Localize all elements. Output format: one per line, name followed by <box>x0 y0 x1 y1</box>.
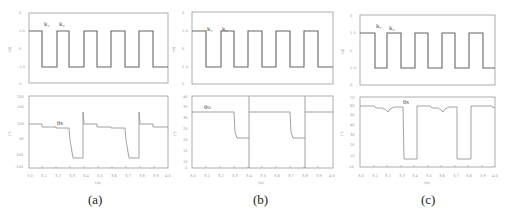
y-axis-label: (V) <box>172 46 176 52</box>
svg-text:0: 0 <box>350 49 353 53</box>
svg-text:200: 200 <box>17 95 25 99</box>
y-tick-labels: 51.5 0-1.5 -5 <box>349 14 356 87</box>
svg-text:3.2: 3.2 <box>218 174 224 178</box>
signal-theta-s-trace <box>29 112 168 158</box>
svg-text:4.0: 4.0 <box>165 174 171 178</box>
svg-text:1.5: 1.5 <box>182 29 188 33</box>
svg-text:3.8: 3.8 <box>139 174 145 178</box>
label-k1: k₁ <box>376 22 382 30</box>
svg-text:15: 15 <box>183 149 188 153</box>
svg-text:30: 30 <box>183 116 188 120</box>
svg-text:3.6: 3.6 <box>111 174 117 178</box>
svg-text:25: 25 <box>183 127 188 131</box>
label-k2: k₂ <box>389 24 396 32</box>
svg-text:3.7: 3.7 <box>453 174 459 178</box>
y-axis-label: (°) <box>8 131 12 136</box>
svg-text:3.6: 3.6 <box>439 174 445 178</box>
caption-a: (a) <box>88 192 102 208</box>
svg-text:3.1: 3.1 <box>41 174 47 178</box>
y-axis-label: (V) <box>341 48 345 54</box>
svg-text:-5: -5 <box>18 82 22 86</box>
svg-text:4.0: 4.0 <box>492 174 498 178</box>
svg-text:3.3: 3.3 <box>232 174 238 178</box>
svg-text:40: 40 <box>350 123 355 127</box>
svg-text:-1.5: -1.5 <box>18 65 25 69</box>
plot-frame <box>29 96 168 168</box>
svg-text:3.0: 3.0 <box>358 174 364 178</box>
svg-text:10: 10 <box>350 154 355 158</box>
signal-theta-o-trace <box>192 112 249 138</box>
svg-text:3.1: 3.1 <box>372 174 378 178</box>
svg-text:20: 20 <box>183 138 188 142</box>
plot-frame <box>360 97 495 167</box>
signal-k-trace <box>360 33 495 68</box>
svg-text:3.5: 3.5 <box>426 174 432 178</box>
svg-text:-100: -100 <box>15 153 24 157</box>
y-tick-labels: 7060 5040 3020 10-10 <box>348 96 355 169</box>
signal-theta-o-trace <box>249 112 305 138</box>
svg-text:3.4: 3.4 <box>83 174 89 178</box>
svg-text:0: 0 <box>182 47 185 51</box>
svg-text:3.5: 3.5 <box>260 174 266 178</box>
x-axis-label: t(s) <box>424 181 431 185</box>
svg-text:60: 60 <box>350 104 355 108</box>
label-k2: k₂ <box>222 25 229 33</box>
y-tick-labels: 200150 10050 -100-150 <box>15 95 25 169</box>
svg-text:3.3: 3.3 <box>69 174 75 178</box>
x-tick-labels: 3.03.1 3.23.3 3.43.5 3.63.7 3.83.9 4.0 <box>190 174 335 178</box>
caption-c: (c) <box>421 192 435 208</box>
svg-text:3.9: 3.9 <box>153 174 159 178</box>
svg-text:3.9: 3.9 <box>316 174 322 178</box>
svg-text:3.1: 3.1 <box>204 174 210 178</box>
svg-text:35: 35 <box>183 105 188 109</box>
svg-text:-1.5: -1.5 <box>349 66 356 70</box>
svg-text:70: 70 <box>350 96 355 100</box>
figure-canvas: k₁ k₂ 51.5 0-1.5 -5 (V) θs 3.03.1 3.23.3… <box>0 0 505 215</box>
signal-theta-s-trace <box>360 106 495 159</box>
svg-text:3.8: 3.8 <box>302 174 308 178</box>
svg-text:3.0: 3.0 <box>190 174 196 178</box>
svg-text:3.2: 3.2 <box>385 174 391 178</box>
panel-a-top-plot: k₁ k₂ 51.5 0-1.5 -5 (V) <box>8 11 168 86</box>
svg-text:10: 10 <box>183 160 188 164</box>
panel-a-bottom-plot: θs 3.03.1 3.23.3 3.43.5 3.63.7 3.83.9 4.… <box>8 95 171 185</box>
signal-k-trace <box>29 31 168 67</box>
y-tick-labels: 51.5 0-1.5 -5 <box>181 11 188 86</box>
plot-frame <box>192 96 333 168</box>
label-k2: k₂ <box>59 20 66 28</box>
svg-text:3.8: 3.8 <box>466 174 472 178</box>
svg-text:150: 150 <box>17 105 25 109</box>
svg-text:4.0: 4.0 <box>329 174 335 178</box>
signal-k-trace <box>192 31 333 67</box>
x-tick-labels: 3.03.1 3.23.3 3.43.5 3.63.7 3.83.9 4.0 <box>27 174 171 178</box>
svg-text:3.0: 3.0 <box>27 174 33 178</box>
svg-text:5: 5 <box>350 14 352 18</box>
label-theta-o: θo <box>204 103 211 111</box>
svg-text:50: 50 <box>350 113 355 117</box>
y-axis-label: (°) <box>340 131 344 136</box>
x-axis-label: t(s) <box>95 181 102 185</box>
caption-b: (b) <box>253 192 268 208</box>
label-k1: k₁ <box>207 25 213 33</box>
y-tick-labels: 4035 3025 2015 100 <box>183 95 188 170</box>
panel-c-bottom-plot: θs 3.03.1 3.23.3 3.43.5 3.63.7 3.83.9 4.… <box>340 96 498 185</box>
svg-text:3.4: 3.4 <box>412 174 418 178</box>
panel-b-top-plot: k₁ k₂ 51.5 0-1.5 -5 (V) <box>172 11 333 86</box>
svg-text:100: 100 <box>17 122 25 126</box>
svg-text:3.4: 3.4 <box>246 174 252 178</box>
svg-text:-1.5: -1.5 <box>181 65 188 69</box>
label-theta-s: θs <box>57 119 63 127</box>
label-k1: k₁ <box>44 20 50 28</box>
label-theta-s: θs <box>403 98 409 106</box>
svg-text:20: 20 <box>350 143 355 147</box>
svg-text:3.9: 3.9 <box>480 174 486 178</box>
svg-text:-5: -5 <box>181 82 185 86</box>
x-tick-labels: 3.03.1 3.23.3 3.43.5 3.63.7 3.83.9 4.0 <box>358 174 498 178</box>
panel-c-top-plot: k₁ k₂ 51.5 0-1.5 -5 (V) <box>341 14 495 87</box>
svg-text:-5: -5 <box>349 83 353 87</box>
panel-b-bottom-plot: θo 3.03.1 3.23.3 3.43.5 3.63.7 3.83.9 4.… <box>173 95 335 185</box>
svg-text:5: 5 <box>19 11 21 15</box>
svg-text:1.5: 1.5 <box>19 29 25 33</box>
svg-text:3.7: 3.7 <box>125 174 131 178</box>
svg-text:1.5: 1.5 <box>350 31 356 35</box>
